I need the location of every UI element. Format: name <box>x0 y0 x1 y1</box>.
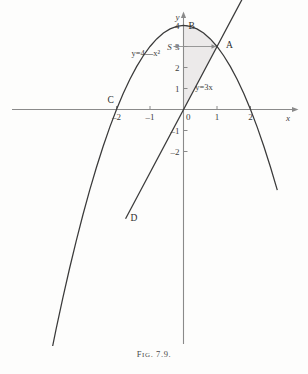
equation-label-straight-line: y=3x <box>195 82 213 92</box>
curves-group <box>50 0 278 346</box>
y-axis-arrow-icon <box>181 12 186 19</box>
x-axis-arrow-icon <box>292 107 299 112</box>
region-label-s: S <box>167 42 172 52</box>
x-tick-label: 0 <box>186 112 191 122</box>
y-tick-label: –2 <box>170 147 180 157</box>
point-label-c: C <box>108 95 114 105</box>
shaded-area-S <box>184 26 218 110</box>
point-label-d: D <box>131 213 138 223</box>
axes-group <box>12 12 299 345</box>
caption-smallcaps: IG <box>142 351 151 359</box>
parabola-curve <box>50 26 278 347</box>
x-tick-label: –1 <box>145 112 155 122</box>
point-label-b: B <box>189 21 195 31</box>
point-label-a: A <box>226 40 233 50</box>
equation-label-parabola: y=4—x² <box>132 48 161 58</box>
y-tick-label: 1 <box>175 84 180 94</box>
figure-caption: FIG. 7.9. <box>0 349 308 359</box>
caption-number: . 7.9. <box>151 349 172 359</box>
y-tick-label: 2 <box>175 63 180 73</box>
x-axis-label: x <box>285 113 290 123</box>
x-tick-label: 1 <box>215 112 220 122</box>
y-axis-label: y <box>175 12 180 22</box>
shaded-region-group <box>184 26 218 110</box>
figure-container: –2–1012 4321–1–2 ABCDy=4—x²y=3xSxy FIG. … <box>0 0 308 374</box>
graph-plot: –2–1012 4321–1–2 ABCDy=4—x²y=3xSxy <box>0 0 308 346</box>
